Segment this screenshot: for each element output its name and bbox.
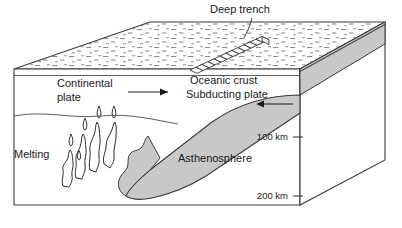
label-asthenosphere: Asthenosphere	[178, 152, 252, 164]
label-subducting-plate: Subducting plate	[186, 88, 268, 100]
label-oceanic-crust: Oceanic crust	[190, 74, 257, 86]
label-depth-200km: 200 km	[257, 190, 288, 201]
label-depth-100km: 100 km	[257, 131, 288, 142]
label-deep-trench: Deep trench	[210, 3, 270, 15]
subduction-diagram: Deep trench Continental plate Oceanic cr…	[0, 0, 402, 228]
label-melting: Melting	[14, 148, 49, 160]
label-continental-plate-line2: plate	[57, 91, 81, 103]
label-continental-plate-line1: Continental	[57, 77, 113, 89]
block-diagram-canvas: Deep trench Continental plate Oceanic cr…	[0, 0, 402, 228]
